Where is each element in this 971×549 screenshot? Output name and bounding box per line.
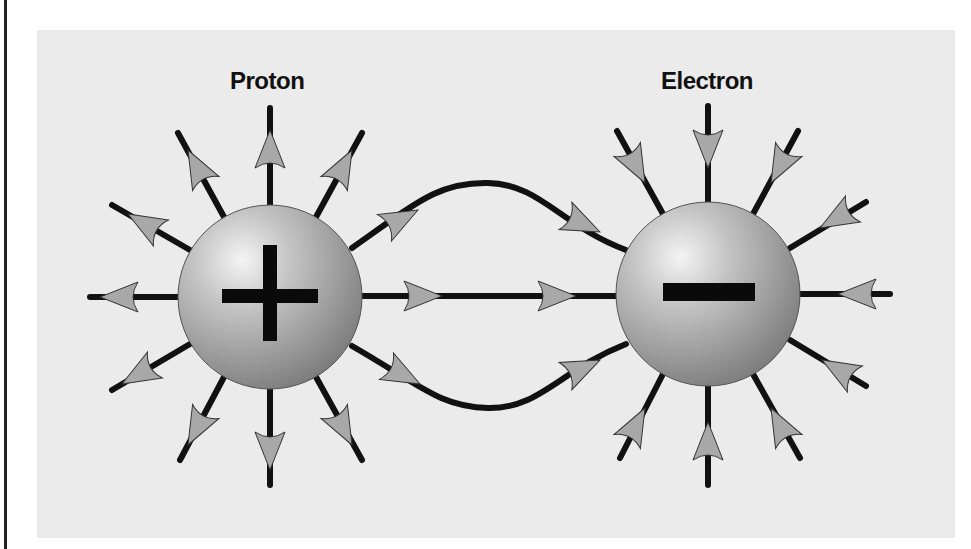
plus-sign-icon-vertical	[263, 245, 277, 341]
arrow-icon	[758, 142, 802, 190]
electron-label: Electron	[661, 67, 753, 94]
arrow-icon	[693, 130, 723, 168]
arrow-icon	[815, 347, 863, 392]
labels: Proton Electron	[230, 67, 753, 94]
arrow-icon	[614, 142, 658, 190]
arrow-icon	[693, 422, 723, 460]
minus-sign-icon	[663, 283, 755, 301]
arrow-icon	[538, 281, 576, 311]
arrow-icon	[100, 282, 138, 312]
proton-label: Proton	[230, 67, 304, 94]
arrow-icon	[115, 352, 163, 397]
arrow-icon	[404, 281, 442, 311]
arrow-icon	[121, 201, 169, 246]
arrow-icon	[614, 401, 658, 449]
arrow-icon	[175, 143, 219, 191]
arrow-icon	[255, 432, 285, 470]
proton-sphere	[178, 205, 362, 389]
electron-sphere	[616, 202, 800, 386]
arrow-icon	[559, 346, 606, 389]
arrow-icon	[758, 401, 802, 449]
arrow-icon	[255, 130, 285, 168]
arrow-icon	[175, 404, 219, 452]
field-diagram: Proton Electron	[0, 0, 971, 549]
arrow-icon	[321, 143, 365, 191]
arrow-icon	[379, 353, 427, 397]
arrow-icon	[813, 196, 861, 241]
arrow-icon	[321, 404, 365, 452]
arrow-icon	[838, 279, 876, 309]
